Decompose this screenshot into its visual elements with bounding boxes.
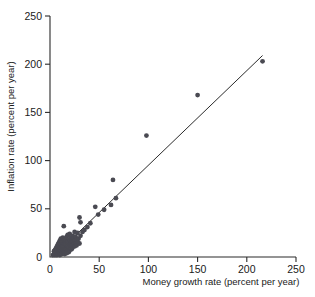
y-tick-label-200: 200	[24, 58, 42, 70]
plot-canvas: 050100150200250050100150200250Money grow…	[0, 0, 315, 297]
x-tick-label-200: 200	[238, 263, 256, 275]
regression-line	[53, 56, 263, 257]
data-point-98	[88, 221, 93, 226]
data-point-106	[195, 93, 200, 98]
data-point-91	[77, 241, 82, 246]
y-tick-label-50: 50	[30, 202, 42, 214]
scatter-chart-figure: 050100150200250050100150200250Money grow…	[0, 0, 315, 297]
data-point-99	[93, 204, 98, 209]
data-point-102	[109, 203, 114, 208]
data-point-92	[77, 215, 82, 220]
data-point-97	[85, 225, 90, 230]
x-tick-label-150: 150	[189, 263, 207, 275]
x-tick-label-0: 0	[47, 263, 53, 275]
y-tick-label-100: 100	[24, 154, 42, 166]
data-point-104	[114, 196, 119, 201]
axis-spines	[50, 16, 296, 257]
x-tick-label-250: 250	[287, 263, 305, 275]
y-tick-label-150: 150	[24, 106, 42, 118]
data-point-105	[144, 133, 149, 138]
y-tick-label-0: 0	[36, 251, 42, 263]
data-point-103	[111, 177, 116, 182]
x-tick-label-50: 50	[93, 263, 105, 275]
data-point-94	[78, 220, 83, 225]
x-axis-title: Money growth rate (percent per year)	[143, 276, 300, 287]
data-point-107	[260, 59, 265, 64]
data-point-101	[102, 207, 107, 212]
data-point-100	[96, 212, 101, 217]
data-point-45	[61, 224, 66, 229]
x-tick-label-100: 100	[140, 263, 158, 275]
y-axis-title: Inflation rate (percent per year)	[5, 61, 16, 191]
y-tick-label-250: 250	[24, 10, 42, 22]
